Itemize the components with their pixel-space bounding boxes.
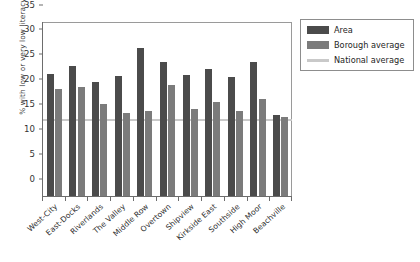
legend-label-area: Area	[334, 25, 353, 35]
bar-borough-average	[191, 109, 198, 196]
y-axis-tick-mark	[39, 4, 43, 5]
bar-area	[183, 75, 190, 196]
bar-group	[66, 22, 89, 196]
legend-label-borough-average: Borough average	[334, 40, 405, 50]
y-axis-tick: 15	[24, 93, 43, 112]
bar-area	[273, 115, 280, 196]
bar-borough-average	[281, 117, 288, 196]
bar-borough-average	[78, 87, 85, 196]
y-axis-tick: 25	[24, 43, 43, 62]
bar-area	[160, 62, 167, 196]
bar-group	[247, 22, 270, 196]
legend-item-area: Area	[307, 25, 408, 35]
bar-borough-average	[213, 102, 220, 196]
bars-layer	[43, 22, 292, 196]
bar-group	[179, 22, 202, 196]
y-axis-tick-label: 30	[24, 24, 39, 34]
y-axis-tick-label: 5	[30, 148, 39, 158]
x-axis-label-slot: Overtown	[156, 200, 179, 262]
legend-item-national-average: National average	[307, 55, 408, 65]
national-average-swatch-icon	[307, 59, 329, 62]
bar-borough-average	[55, 89, 62, 196]
bar-area	[115, 76, 122, 196]
x-axis-labels: West-CityEast-DocksRiverlandsThe ValleyM…	[42, 200, 292, 262]
bar-group	[156, 22, 179, 196]
borough-average-swatch-icon	[307, 41, 329, 49]
bar-borough-average	[236, 111, 243, 196]
x-axis-label-slot: Beachville	[269, 200, 292, 262]
bar-group	[201, 22, 224, 196]
bar-borough-average	[168, 85, 175, 196]
bar-area	[92, 82, 99, 196]
y-axis-tick: 35	[24, 0, 43, 13]
bar-group	[43, 22, 66, 196]
bar-borough-average	[259, 99, 266, 196]
chart-legend: Area Borough average National average	[300, 19, 414, 71]
y-axis-tick: 30	[24, 18, 43, 37]
y-axis-tick-label: 0	[30, 173, 39, 183]
literacy-bar-chart: % with low or very low literacy 05101520…	[0, 0, 420, 262]
y-axis-tick: 10	[24, 118, 43, 137]
bar-borough-average	[100, 104, 107, 196]
bar-group	[88, 22, 111, 196]
y-axis-tick-label: 20	[24, 74, 39, 84]
bar-group	[224, 22, 247, 196]
bar-area	[137, 48, 144, 196]
y-axis-tick: 5	[30, 143, 43, 162]
legend-item-borough-average: Borough average	[307, 40, 408, 50]
bar-group	[111, 22, 134, 196]
bar-area	[69, 66, 76, 196]
bar-area	[250, 62, 257, 196]
y-axis-tick-label: 35	[24, 0, 39, 9]
bar-group	[269, 22, 292, 196]
bar-group	[134, 22, 157, 196]
bar-area	[47, 74, 54, 196]
bar-area	[228, 77, 235, 196]
bar-area	[205, 69, 212, 196]
area-swatch-icon	[307, 26, 329, 34]
plot-area: 05101520253035	[42, 22, 292, 197]
y-axis-tick: 0	[30, 168, 43, 187]
legend-label-national-average: National average	[334, 55, 404, 65]
bar-borough-average	[145, 111, 152, 197]
y-axis-tick-label: 10	[24, 123, 39, 133]
y-axis-tick-label: 25	[24, 49, 39, 59]
bar-borough-average	[123, 113, 130, 196]
y-axis-tick-label: 15	[24, 98, 39, 108]
y-axis-tick: 20	[24, 68, 43, 87]
